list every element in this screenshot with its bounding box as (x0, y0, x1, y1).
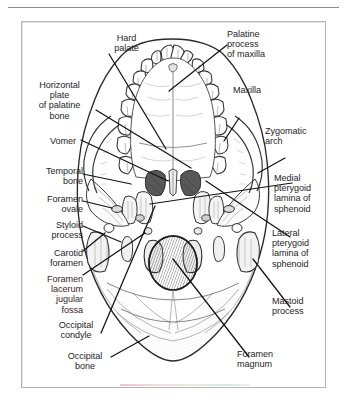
vomer-structure (169, 169, 177, 196)
carotid-foramen-right (232, 224, 242, 233)
label-vomer[interactable]: Vomer (28, 136, 76, 146)
label-carotid-foramen[interactable]: Carotid foramen (25, 248, 83, 268)
page-top-rule (8, 7, 339, 8)
label-foramen-ovale[interactable]: Foramen ovale (24, 194, 83, 214)
carotid-foramen-left (104, 224, 114, 233)
foramen-magnum-structure (149, 236, 197, 290)
label-palatine-process[interactable]: Palatine process of maxilla (227, 29, 299, 60)
label-maxilla[interactable]: Maxilla (233, 85, 281, 95)
foramen-spinosum-right (202, 215, 210, 221)
label-lateral-pterygoid[interactable]: Lateral pterygoid lamina of sphenoid (272, 228, 334, 269)
jugular-fossa-right (194, 228, 202, 235)
label-styloid-process[interactable]: Styloid process (27, 220, 83, 240)
label-horizontal-plate[interactable]: Horizontal plate of palatine bone (25, 80, 94, 121)
label-mastoid-process[interactable]: Mastoid process (272, 296, 330, 316)
label-zygomatic-arch[interactable]: Zygomatic arch (265, 126, 325, 146)
label-hard-palate[interactable]: Hard palate (99, 33, 154, 53)
label-occipital-condyle[interactable]: Occipital condyle (46, 320, 106, 340)
label-occipital-bone[interactable]: Occipital bone (56, 351, 114, 371)
foramen-ovale-right (224, 206, 235, 213)
label-temporal-bone[interactable]: Temporal bone (28, 166, 83, 186)
figure-page: Hard palate Palatine process of maxilla … (0, 0, 347, 413)
foramen-spinosum-left (136, 215, 144, 221)
foramen-ovale-left (112, 206, 123, 213)
label-foramen-magnum[interactable]: Foramen magnum (237, 349, 299, 369)
label-medial-pterygoid[interactable]: Medial pterygoid lamina of sphenoid (274, 173, 334, 214)
label-foramen-lacerum[interactable]: Foramen lacerum jugular fossa (27, 274, 83, 315)
